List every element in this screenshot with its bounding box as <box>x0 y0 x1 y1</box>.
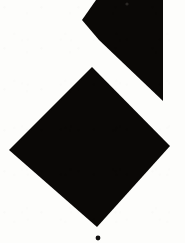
speck-below-diamond-dot <box>96 236 101 241</box>
composition-svg <box>0 0 185 243</box>
artwork-canvas: Untitled Abstract Composition Black geom… <box>0 0 185 243</box>
speck-in-chevron-dot <box>125 2 128 5</box>
